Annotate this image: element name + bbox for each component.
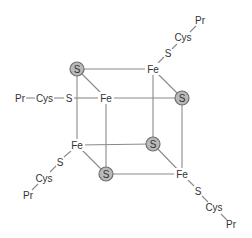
sulfur-atom-3: S	[150, 139, 157, 150]
cube-bonds	[77, 69, 182, 174]
ligand-top-sulfur: S	[165, 48, 172, 59]
ligand-left: Pr Cys S	[15, 93, 73, 104]
ligand-bottom-right-pr: Pr	[226, 219, 237, 230]
fe-atom-1: Fe	[147, 64, 159, 75]
ligand-left-cys: Cys	[36, 93, 53, 104]
fe-atom-4: Fe	[176, 169, 188, 180]
ligand-top: S Cys Pr	[165, 15, 206, 59]
ligand-bottom-right-sulfur: S	[195, 186, 202, 197]
ligand-bottom-left-cys: Cys	[35, 173, 52, 184]
ligand-bottom-left-pr: Pr	[23, 190, 34, 201]
bond-fe4-sbr	[188, 180, 194, 186]
bond-fe3-sbl	[64, 151, 71, 157]
ligand-top-cys: Cys	[174, 32, 191, 43]
fe4s4-cluster-diagram: Fe Fe Fe Fe S S S S S Cys Pr Pr Cys S S …	[0, 0, 252, 238]
sulfur-atom-4: S	[103, 169, 110, 180]
bond-s3-fe3	[77, 144, 153, 145]
fe-atom-3: Fe	[71, 140, 83, 151]
bond-fe1-stop	[158, 57, 164, 63]
ligand-left-pr: Pr	[15, 93, 26, 104]
bond-sbl-cysbl	[50, 166, 56, 172]
ligand-left-sulfur: S	[66, 93, 73, 104]
ligand-bottom-left: S Cys Pr	[23, 157, 64, 201]
ligand-bottom-right-cys: Cys	[205, 202, 222, 213]
ligand-bottom-left-sulfur: S	[57, 157, 64, 168]
fe-atom-2: Fe	[100, 93, 112, 104]
sulfur-atom-1: S	[74, 64, 81, 75]
ligand-top-pr: Pr	[195, 15, 206, 26]
bond-stop-cystop	[172, 44, 177, 49]
sulfur-atom-2: S	[179, 93, 186, 104]
ligand-bottom-right: S Cys Pr	[195, 186, 237, 231]
iron-atoms: Fe Fe Fe Fe	[69, 63, 190, 180]
